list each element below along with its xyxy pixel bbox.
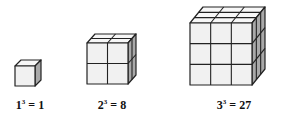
- cubes-diagram: 13 = 1 23 = 8 33 = 27: [0, 0, 284, 118]
- cube-3-front-face: [190, 23, 252, 85]
- cube-1-front-face: [15, 66, 35, 86]
- label-cube-2: 23 = 8: [98, 98, 126, 112]
- label-cube-1: 13 = 1: [16, 98, 44, 112]
- cube-2: [87, 34, 136, 84]
- cube-layer: [15, 7, 265, 86]
- cube-1: [15, 60, 41, 86]
- label-layer: 13 = 1 23 = 8 33 = 27: [16, 98, 251, 112]
- label-cube-3: 33 = 27: [217, 98, 251, 112]
- cube-3: [190, 7, 265, 85]
